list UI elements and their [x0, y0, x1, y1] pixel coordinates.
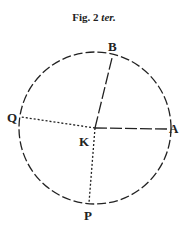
label-P: P — [84, 208, 92, 223]
label-B: B — [108, 39, 117, 54]
figure: Fig. 2 ter. B A Q K P — [0, 0, 188, 228]
label-A: A — [169, 121, 179, 136]
radius-KP — [89, 128, 95, 203]
circle-diagram: B A Q K P — [0, 0, 188, 228]
label-Q: Q — [7, 110, 17, 125]
radius-KQ — [21, 117, 95, 128]
label-K: K — [79, 134, 90, 149]
radius-KB — [95, 58, 112, 128]
radius-KA — [95, 128, 168, 129]
